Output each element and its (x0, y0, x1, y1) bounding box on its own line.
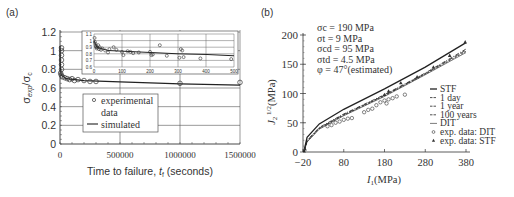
dit-data-point (350, 116, 353, 119)
x-axis-label: I1(MPa) (366, 174, 401, 187)
dit-data-point (387, 98, 390, 101)
y-tick-label: 1.2 (41, 26, 56, 38)
y-tick-label: 0 (50, 138, 56, 150)
dit-data-point (326, 125, 329, 128)
legend-label: exp. data: STF (440, 136, 496, 146)
inset-y-tick-label: 0.9 (86, 45, 93, 50)
legend: experimentaldatasimulated (83, 94, 158, 132)
x-axis-label: Time to failure, tf (seconds) (87, 165, 213, 178)
y-axis-label: σexp/σc (20, 72, 34, 104)
inset-x-tick-label: 200 (146, 69, 154, 74)
y-tick-label: 200 (282, 29, 299, 41)
legend: STF1 day1 year100 yearsDITexp. data: DIT… (430, 84, 496, 146)
inset-x-tick-label: 400 (202, 69, 210, 74)
legend-label: data (101, 107, 118, 118)
y-tick-label: 0.4 (41, 101, 56, 113)
inset-chart: 0.60.70.80.911.10100200300400500 (82, 31, 238, 74)
inset-y-tick-label: 0.6 (86, 65, 93, 70)
dit-data-point (375, 104, 378, 107)
y-tick-label: 100 (282, 88, 299, 100)
x-tick-label: 180 (377, 157, 393, 168)
panel-b-label: (b) (261, 7, 273, 18)
parameter-annotation: σc = 190 MPa (317, 22, 374, 33)
stf-data-point (432, 65, 436, 68)
parameter-annotation: σcd = 95 MPa (317, 43, 374, 54)
inset-x-tick-label: 300 (174, 69, 182, 74)
parameter-annotation: σt = 9 MPa (317, 33, 363, 44)
y-axis-label: J2 1/2(MPa) (265, 79, 279, 125)
dit-data-point (403, 93, 406, 96)
panel-a-label: (a) (6, 7, 18, 18)
inset-y-tick-label: 0.7 (86, 58, 93, 63)
inset-x-tick-label: 500 (230, 69, 238, 74)
dit-data-point (367, 108, 370, 111)
stf-data-point (463, 40, 467, 43)
y-tick-label: 50 (287, 117, 299, 129)
dit-data-point (391, 96, 394, 99)
y-tick-label: 1 (50, 45, 56, 57)
parameter-annotation: φ = 47°(estimated) (317, 64, 392, 76)
data-point (88, 79, 93, 84)
x-tick-label: 280 (417, 157, 433, 168)
x-tick-label: 0 (58, 150, 63, 160)
stf-data-point (387, 89, 391, 92)
dit-data-point (385, 102, 388, 105)
x-tick-label: 1000000 (164, 150, 196, 160)
inset-y-tick-label: 1.1 (86, 32, 93, 37)
figure-canvas: (a)00.20.40.60.811.205000001000000150000… (0, 0, 514, 197)
dit-data-point (379, 101, 382, 104)
dit-data-point (342, 118, 345, 121)
legend-marker-triangle (432, 139, 435, 142)
legend-label: experimental (101, 95, 153, 106)
x-tick-label: −20 (295, 157, 311, 168)
dit-data-point (330, 123, 333, 126)
x-tick-label: 500000 (107, 150, 135, 160)
dit-data-point (371, 107, 374, 110)
y-tick-label: 0.2 (41, 119, 56, 131)
dit-data-point (395, 95, 398, 98)
inset-y-tick-label: 0.8 (86, 52, 93, 57)
panel-a-chart: 00.20.40.60.811.2050000010000001500000Ti… (20, 26, 256, 178)
dit-data-point (362, 111, 365, 114)
panel-b-chart: 050100150200−2080180280380I1(MPa)J2 1/2(… (265, 22, 496, 187)
y-tick-label: 0.8 (41, 63, 56, 75)
dit-data-point (338, 120, 341, 123)
x-tick-label: 380 (458, 157, 474, 168)
stf-data-point (448, 53, 452, 56)
legend-marker-circle (432, 131, 435, 134)
inset-x-tick-label: 100 (118, 69, 126, 74)
dit-data-point (334, 121, 337, 124)
y-tick-label: 0.6 (41, 82, 56, 94)
x-tick-label: 1500000 (224, 150, 256, 160)
dit-data-point (346, 117, 349, 120)
legend-label: simulated (101, 119, 140, 130)
y-tick-label: 150 (282, 58, 299, 70)
stf-data-point (303, 147, 307, 150)
x-tick-label: 80 (339, 157, 350, 168)
parameter-annotation: σtd = 4.5 MPa (317, 54, 375, 65)
